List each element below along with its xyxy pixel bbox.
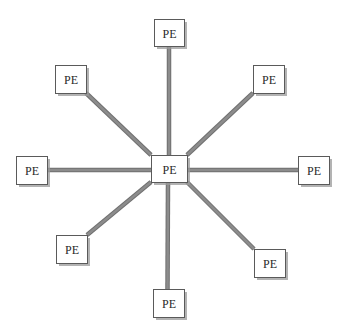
- link-line: [187, 93, 253, 155]
- node-pe-bottom-right: PE: [255, 250, 289, 281]
- link-bottom: [168, 182, 169, 289]
- pe-label: PE: [65, 243, 79, 257]
- node-pe-left: PE: [17, 157, 51, 188]
- pe-label: PE: [64, 73, 78, 87]
- pe-label: PE: [263, 257, 277, 271]
- link-line: [87, 182, 151, 235]
- node-pe-top-left: PE: [56, 66, 90, 97]
- pe-label: PE: [307, 164, 321, 178]
- link-line: [168, 182, 169, 289]
- node-pe-right: PE: [299, 157, 333, 188]
- node-pe-top: PE: [155, 20, 188, 50]
- link-top-left: [86, 93, 151, 155]
- star-topology-diagram: PEPEPEPEPEPEPEPEPE: [0, 0, 348, 335]
- pe-label: PE: [262, 73, 276, 87]
- link-top-right: [187, 93, 253, 155]
- link-bottom-left: [87, 182, 151, 235]
- node-pe-top-right: PE: [254, 66, 288, 97]
- pe-label: PE: [162, 297, 176, 311]
- pe-label: PE: [162, 27, 176, 41]
- pe-label: PE: [162, 163, 176, 177]
- pe-label: PE: [25, 164, 39, 178]
- node-pe-bottom-left: PE: [57, 236, 91, 267]
- link-bottom-right: [187, 182, 254, 249]
- node-pe-bottom: PE: [154, 290, 188, 321]
- link-line: [86, 93, 151, 155]
- link-line: [187, 182, 254, 249]
- node-pe-center: PE: [152, 156, 191, 186]
